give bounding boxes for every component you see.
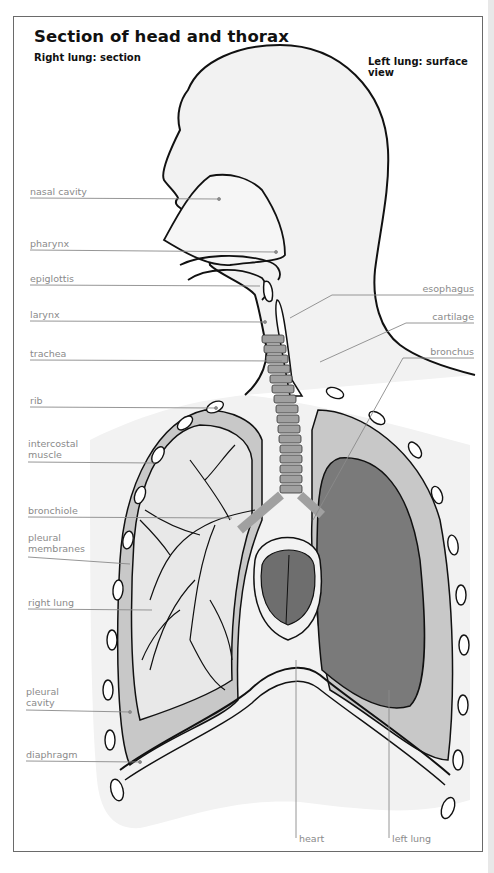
label-heart: heart bbox=[299, 833, 324, 844]
label-left-lung: left lung bbox=[392, 833, 431, 844]
label-intercostal-muscle-line1: intercostal bbox=[28, 438, 78, 449]
label-pleural-cavity-line2: cavity bbox=[26, 697, 55, 708]
label-diaphragm: diaphragm bbox=[26, 749, 78, 760]
label-trachea: trachea bbox=[30, 348, 66, 359]
label-cartilage: cartilage bbox=[432, 311, 474, 322]
label-epiglottis: epiglottis bbox=[30, 273, 74, 284]
label-pleural-membranes-line2: membranes bbox=[28, 543, 85, 554]
label-bronchiole: bronchiole bbox=[28, 505, 78, 516]
label-larynx: larynx bbox=[30, 309, 60, 320]
label-pharynx: pharynx bbox=[30, 238, 69, 249]
label-intercostal-muscle-line2: muscle bbox=[28, 449, 62, 460]
label-pleural-membranes-line1: pleural bbox=[28, 532, 61, 543]
label-right-lung: right lung bbox=[28, 597, 74, 608]
label-rib: rib bbox=[30, 395, 43, 406]
label-bronchus: bronchus bbox=[430, 346, 474, 357]
label-nasal-cavity: nasal cavity bbox=[30, 186, 87, 197]
label-esophagus: esophagus bbox=[423, 283, 474, 294]
anatomy-illustration bbox=[0, 0, 494, 873]
label-pleural-cavity-line1: pleural bbox=[26, 686, 59, 697]
